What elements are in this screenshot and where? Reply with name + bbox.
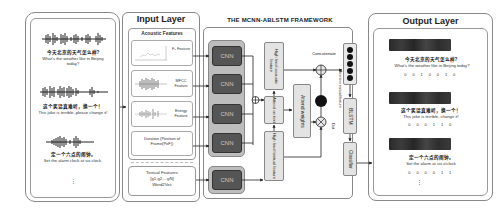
connector-lines — [0, 0, 500, 211]
attentive-feature-node-icon — [315, 95, 327, 107]
merge-plus-icon — [252, 97, 259, 104]
concatenate-plus-icon — [316, 65, 326, 75]
dot-product-icon — [316, 117, 326, 127]
